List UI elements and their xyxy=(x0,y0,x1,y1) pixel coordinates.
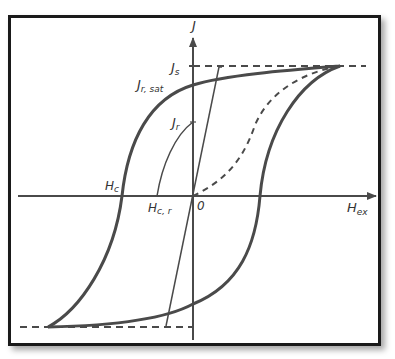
jr-label: Jr xyxy=(169,115,181,132)
h-axis-label: Hex xyxy=(347,200,368,217)
hcr-label: Hc, r xyxy=(148,201,173,216)
svg-text:Js: Js xyxy=(168,60,180,77)
hysteresis-diagram: J Js Jr, sat Jr Hc Hc, r 0 Hex xyxy=(0,0,395,359)
svg-text:Jr, sat: Jr, sat xyxy=(134,77,164,94)
j-axis-label: J xyxy=(189,18,196,33)
origin-label: 0 xyxy=(197,199,205,213)
hc-label: Hc xyxy=(105,179,119,194)
svg-text:Jr: Jr xyxy=(169,115,181,132)
svg-text:Hc: Hc xyxy=(105,179,119,194)
svg-text:Hc, r: Hc, r xyxy=(148,201,173,216)
minor-loop-curve xyxy=(157,122,193,196)
svg-text:Hex: Hex xyxy=(347,200,368,217)
js-label: Js xyxy=(168,60,180,77)
jr-sat-label: Jr, sat xyxy=(134,77,164,94)
